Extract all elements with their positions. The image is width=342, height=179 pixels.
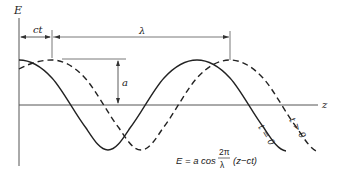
e-axis-label: E xyxy=(13,4,22,17)
wavelength-label: λ xyxy=(138,25,145,36)
ct-label: ct xyxy=(33,24,44,35)
ct-arrow-left-icon xyxy=(20,35,26,39)
wave-diagram: E z ct λ a t = 0 t > 0 E = a cos 2π λ (z… xyxy=(0,0,342,179)
equation-argument: (z−ct) xyxy=(233,155,257,166)
amplitude-arrow-up-icon xyxy=(116,60,120,66)
wavelength-arrow-right-icon xyxy=(223,35,229,39)
curve-label-t0: t = 0 xyxy=(256,123,277,148)
amplitude-arrow-down-icon xyxy=(116,98,120,104)
amplitude-label: a xyxy=(122,77,128,88)
z-axis-label: z xyxy=(321,99,328,110)
wave-equation: E = a cos 2π λ (z−ct) xyxy=(176,147,257,170)
equation-fraction-numerator: 2π xyxy=(219,147,230,157)
wavelength-arrow-left-icon xyxy=(54,35,60,39)
ct-arrow-right-icon xyxy=(45,35,51,39)
equation-lhs: E = a cos xyxy=(176,155,216,166)
curve-label-t-positive: t > 0 xyxy=(287,116,308,141)
equation-fraction-denominator: λ xyxy=(220,160,225,170)
